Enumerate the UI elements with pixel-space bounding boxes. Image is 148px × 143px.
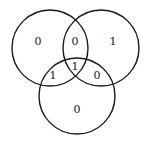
region-a-only-label: 0 xyxy=(35,35,42,48)
region-b-only-label: 1 xyxy=(110,35,117,48)
circle-b-top-right xyxy=(63,10,139,86)
region-ac-label: 1 xyxy=(50,69,57,82)
region-abc-label: 1 xyxy=(72,60,79,73)
region-bc-label: 0 xyxy=(94,69,101,82)
region-ab-label: 0 xyxy=(72,35,79,48)
region-c-only-label: 0 xyxy=(74,103,81,116)
venn-diagram: 0 0 1 1 1 0 0 xyxy=(0,0,148,143)
